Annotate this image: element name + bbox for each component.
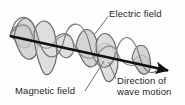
electromagnetic-wave-diagram: Electric field Magnetic field Direction … bbox=[0, 0, 185, 105]
electric-lobe-5 bbox=[132, 45, 151, 74]
magnetic-field-label: Magnetic field bbox=[15, 85, 75, 96]
electric-field-leader-line bbox=[95, 17, 108, 35]
direction-of-wave-motion-label: Direction of wave motion bbox=[117, 75, 171, 97]
direction-label-line-1: Direction of bbox=[117, 75, 171, 86]
electric-field-label: Electric field bbox=[109, 8, 162, 19]
direction-label-line-2: wave motion bbox=[117, 86, 171, 97]
